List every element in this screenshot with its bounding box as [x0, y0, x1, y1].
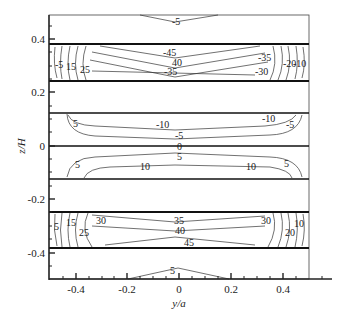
- contour-label: 15: [66, 61, 76, 72]
- contour-label: 15: [66, 217, 76, 228]
- y-tick-label: -0.2: [28, 193, 45, 205]
- y-tick-label: 0.2: [31, 86, 45, 98]
- contour-label: -30: [255, 66, 268, 77]
- x-tick-label: -0.2: [118, 283, 135, 295]
- contour-label: -5: [286, 119, 294, 130]
- contour-label: -10: [156, 119, 169, 130]
- contour-label: -5: [175, 130, 183, 141]
- contour-label: 30: [96, 215, 106, 226]
- x-tick-label: 0.2: [224, 283, 238, 295]
- x-axis: [49, 273, 332, 279]
- contour-label: -10: [262, 113, 275, 124]
- x-tick-label: 0: [176, 283, 182, 295]
- contour-label: 5: [54, 221, 59, 232]
- x-tick-label: -0.4: [67, 283, 85, 295]
- contour-chart: -5 -45 40 -35 -30 -35 -5 15 25 -20 -10 -…: [0, 0, 347, 323]
- contour-label: 5: [284, 158, 289, 169]
- y-tick-label: -0.4: [28, 247, 46, 259]
- y-tick-label: 0.4: [31, 33, 45, 45]
- y-tick-label: 0: [40, 140, 46, 152]
- contour-label: 5: [177, 151, 182, 162]
- contour-label: 5: [75, 159, 80, 170]
- contour-label: 40: [175, 225, 185, 236]
- contour-label: 5: [73, 118, 78, 129]
- contour-label: -5: [172, 16, 180, 27]
- y-tick-labels: 0.4 0.2 0 -0.2 -0.4: [28, 33, 46, 259]
- contour-label: 10: [246, 161, 256, 172]
- y-axis-label: z/H: [15, 137, 27, 154]
- contour-label: -10: [293, 58, 306, 69]
- x-axis-label: y/a: [171, 297, 186, 309]
- contour-label: 30: [261, 215, 271, 226]
- x-tick-labels: -0.4 -0.2 0 0.2 0.4: [67, 283, 290, 295]
- contour-label: 10: [294, 218, 304, 229]
- contour-label: 10: [140, 161, 150, 172]
- contour-label: 45: [184, 237, 194, 248]
- contour-label: 5: [170, 265, 175, 276]
- contour-label: -35: [258, 52, 271, 63]
- contour-label: -35: [164, 66, 177, 77]
- x-tick-label: 0.4: [276, 283, 290, 295]
- contour-label: 25: [79, 227, 89, 238]
- contour-label: -5: [55, 59, 63, 70]
- contour-label: 25: [80, 64, 90, 75]
